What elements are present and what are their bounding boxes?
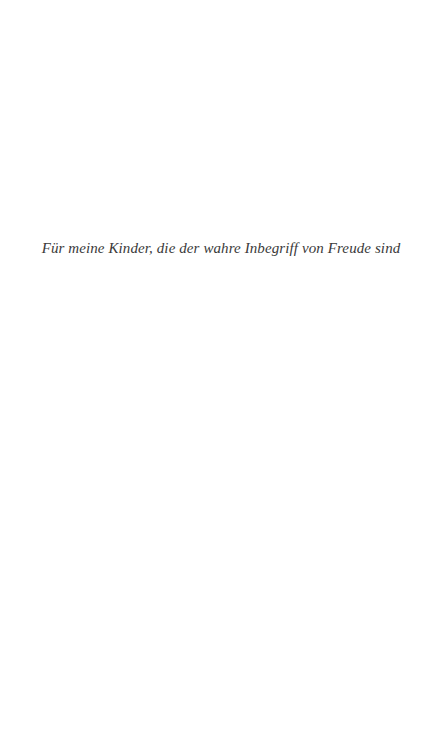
book-page: Für meine Kinder, die der wahre Inbegrif… — [0, 0, 442, 748]
dedication-text: Für meine Kinder, die der wahre Inbegrif… — [0, 239, 442, 257]
